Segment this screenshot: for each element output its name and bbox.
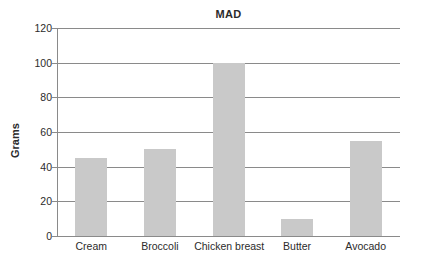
- x-axis-tick-labels: CreamBroccoliChicken breastButterAvocado: [57, 240, 400, 260]
- y-axis-tick-labels: 020406080100120: [16, 0, 52, 267]
- y-tick-label: 80: [22, 92, 52, 102]
- y-tick-mark: [52, 167, 57, 168]
- bar: [144, 149, 176, 236]
- gridline: [57, 28, 400, 29]
- y-tick-mark: [52, 28, 57, 29]
- bar-chart: MAD Grams 020406080100120 CreamBroccoliC…: [0, 0, 421, 267]
- gridline: [57, 236, 400, 237]
- y-tick-label: 20: [22, 196, 52, 206]
- y-tick-mark: [52, 97, 57, 98]
- bar: [213, 63, 245, 236]
- x-tick-label: Chicken breast: [194, 240, 263, 253]
- y-tick-mark: [52, 132, 57, 133]
- x-tick-label: Butter: [263, 240, 332, 253]
- y-tick-mark: [52, 63, 57, 64]
- y-tick-label: 40: [22, 162, 52, 172]
- y-tick-label: 100: [22, 58, 52, 68]
- bar: [75, 158, 107, 236]
- y-tick-mark: [52, 201, 57, 202]
- plot-area: [57, 28, 400, 236]
- y-tick-label: 120: [22, 23, 52, 33]
- y-tick-label: 60: [22, 127, 52, 137]
- y-tick-label: 0: [22, 231, 52, 241]
- y-tick-mark: [52, 236, 57, 237]
- x-tick-label: Broccoli: [126, 240, 195, 253]
- bar: [281, 219, 313, 236]
- bar: [350, 141, 382, 236]
- x-tick-label: Cream: [57, 240, 126, 253]
- chart-title: MAD: [57, 8, 400, 20]
- x-tick-label: Avocado: [331, 240, 400, 253]
